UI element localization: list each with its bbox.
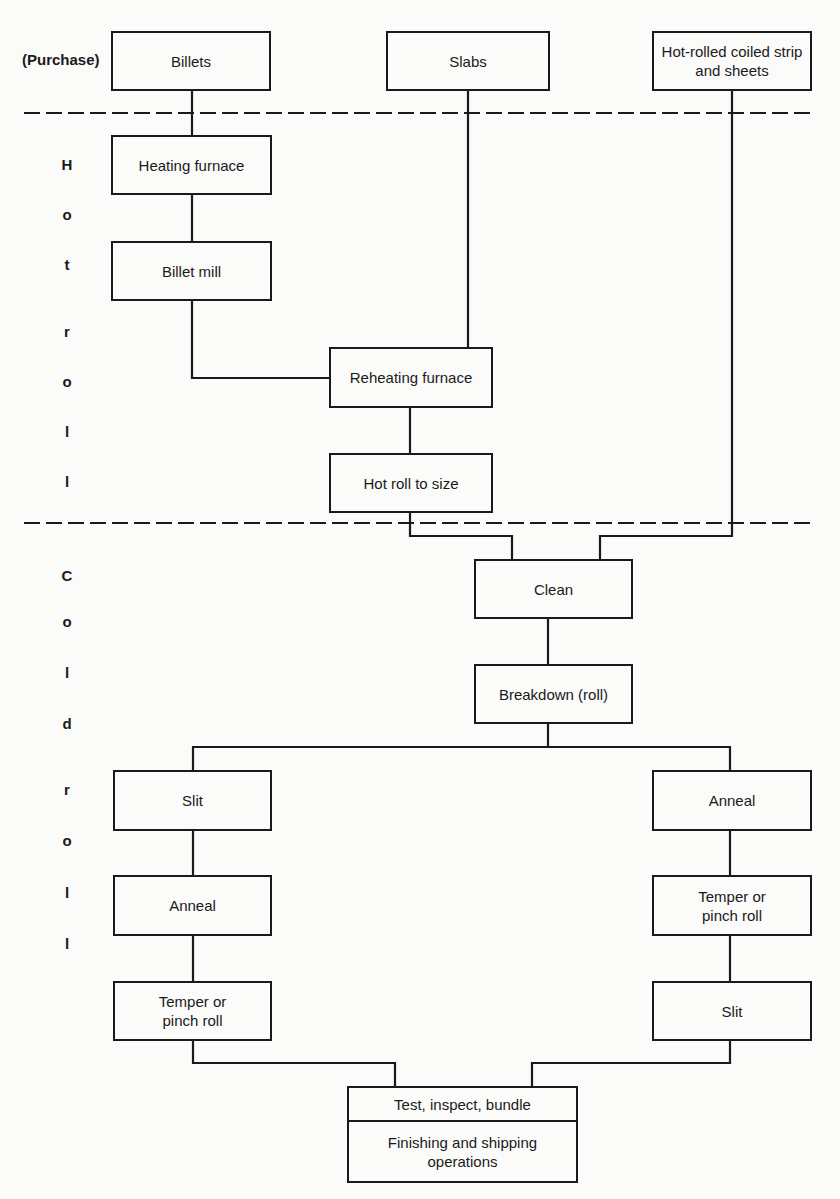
hot-roll-letter: H (57, 156, 77, 173)
box-heating-furnace: Heating furnace (111, 135, 272, 195)
reheating-furnace-label: Reheating furnace (350, 368, 473, 387)
right-slit-label: Slit (722, 1002, 743, 1021)
slabs-label: Slabs (449, 52, 487, 71)
cold-roll-letter: l (57, 884, 77, 901)
box-right-temper: Temper or pinch roll (652, 875, 812, 936)
cold-roll-letter: r (57, 781, 77, 798)
hot-roll-letter: r (57, 323, 77, 340)
hot-roll-letter: o (57, 373, 77, 390)
box-hot-roll-to-size: Hot roll to size (329, 453, 493, 513)
box-final: Test, inspect, bundle Finishing and ship… (347, 1086, 578, 1183)
hot-roll-letter: l (57, 423, 77, 440)
right-temper-label: Temper or pinch roll (684, 887, 780, 925)
purchase-label: (Purchase) (22, 51, 100, 68)
hot-roll-letter: l (57, 473, 77, 490)
cold-roll-letter: l (57, 664, 77, 681)
cold-roll-letter: d (57, 715, 77, 732)
box-right-slit: Slit (652, 981, 812, 1041)
box-clean: Clean (474, 559, 633, 619)
box-left-anneal: Anneal (113, 875, 272, 936)
box-left-temper: Temper or pinch roll (113, 981, 272, 1041)
cold-roll-letter: l (57, 935, 77, 952)
hot-roll-letter: o (57, 206, 77, 223)
hot-roll-letter: t (57, 256, 77, 273)
box-breakdown-roll: Breakdown (roll) (474, 664, 633, 724)
finishing-label: Finishing and shipping operations (369, 1133, 556, 1171)
box-slabs: Slabs (386, 31, 550, 91)
box-right-anneal: Anneal (652, 770, 812, 831)
left-anneal-label: Anneal (169, 896, 216, 915)
billets-label: Billets (171, 52, 211, 71)
right-anneal-label: Anneal (709, 791, 756, 810)
test-label: Test, inspect, bundle (394, 1095, 531, 1114)
box-left-slit: Slit (113, 770, 272, 831)
cold-roll-letter: o (57, 832, 77, 849)
left-temper-label: Temper or pinch roll (145, 992, 240, 1030)
hot-rolled-label: Hot-rolled coiled strip and sheets (660, 42, 804, 80)
box-reheating-furnace: Reheating furnace (329, 347, 493, 408)
clean-label: Clean (534, 580, 573, 599)
process-flow-diagram: (Purchase) Billets Slabs Hot-rolled coil… (0, 0, 840, 1199)
test-inspect-bundle: Test, inspect, bundle (349, 1088, 576, 1122)
billet-mill-label: Billet mill (162, 262, 221, 281)
breakdown-label: Breakdown (roll) (499, 685, 608, 704)
box-billet-mill: Billet mill (111, 241, 272, 301)
cold-roll-letter: C (57, 567, 77, 584)
box-hot-rolled-coiled: Hot-rolled coiled strip and sheets (652, 31, 812, 91)
cold-roll-letter: o (57, 613, 77, 630)
finishing-shipping: Finishing and shipping operations (349, 1122, 576, 1181)
left-slit-label: Slit (182, 791, 203, 810)
hot-roll-to-size-label: Hot roll to size (363, 474, 458, 493)
box-billets: Billets (111, 31, 271, 91)
heating-furnace-label: Heating furnace (139, 156, 245, 175)
